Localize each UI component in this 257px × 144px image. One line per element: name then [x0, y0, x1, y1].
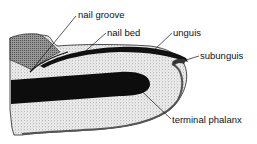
label-terminal-phalanx: terminal phalanx [172, 115, 242, 125]
leader-terminal-phalanx [132, 82, 171, 119]
leader-nail-groove [30, 16, 76, 72]
label-unguis: unguis [173, 28, 201, 38]
nail-anatomy-diagram: nail groove nail bed unguis subunguis te… [0, 0, 257, 144]
label-nail-groove: nail groove [78, 10, 124, 20]
label-nail-bed: nail bed [107, 28, 140, 38]
leader-subunguis [186, 56, 199, 60]
leader-nail-bed [80, 33, 106, 56]
leader-unguis [152, 33, 172, 52]
label-subunguis: subunguis [200, 51, 243, 61]
